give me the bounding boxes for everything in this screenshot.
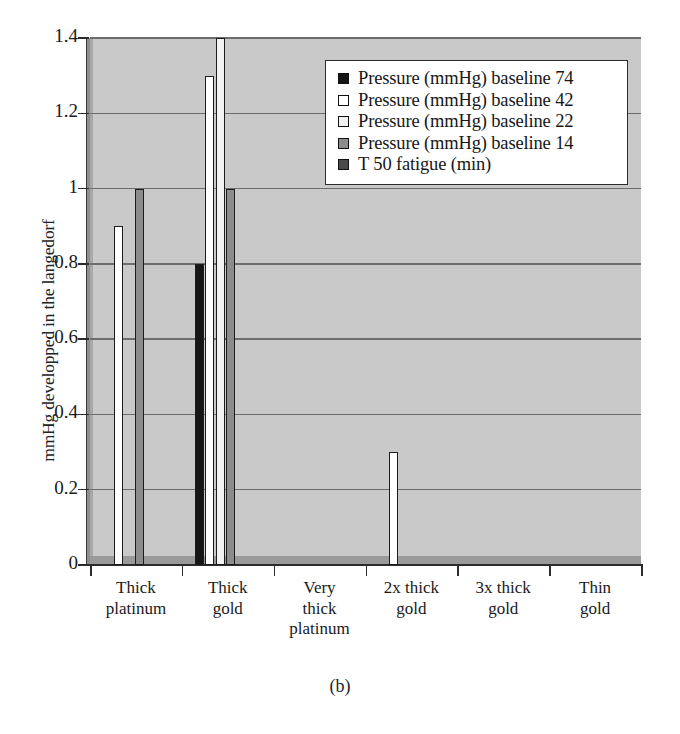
- x-axis-label-line: Very: [274, 578, 366, 599]
- x-axis-label-line: 3x thick: [457, 578, 549, 599]
- x-axis-tick: [366, 565, 368, 576]
- y-axis-label: 1.2: [54, 100, 78, 122]
- x-axis-tick: [90, 565, 92, 576]
- y-axis-tick: [78, 414, 89, 416]
- legend-item: Pressure (mmHg) baseline 74: [338, 68, 617, 90]
- legend-item: T 50 fatigue (min): [338, 154, 617, 176]
- x-axis-label: Thickgold: [182, 578, 274, 619]
- figure-caption: (b): [0, 676, 680, 697]
- x-axis-label: 3x thickgold: [457, 578, 549, 619]
- y-axis-label: 0.4: [54, 401, 78, 423]
- bar: [226, 189, 235, 565]
- x-axis-tick: [641, 565, 643, 576]
- x-axis-label-line: gold: [366, 599, 458, 620]
- legend-label: Pressure (mmHg) baseline 74: [358, 68, 573, 89]
- x-axis-label-line: Thick: [182, 578, 274, 599]
- chart-legend: Pressure (mmHg) baseline 74Pressure (mmH…: [325, 60, 628, 185]
- x-axis-tick: [274, 565, 276, 576]
- x-axis-tick: [182, 565, 184, 576]
- y-axis-tick: [78, 338, 89, 340]
- bar: [205, 76, 214, 565]
- bar: [135, 189, 144, 565]
- x-axis-label-line: gold: [457, 599, 549, 620]
- legend-item: Pressure (mmHg) baseline 14: [338, 133, 617, 155]
- y-axis-tick: [78, 113, 89, 115]
- y-axis-spine: [86, 38, 90, 565]
- gridline: [90, 263, 641, 264]
- y-axis-tick: [78, 188, 89, 190]
- y-axis-spine-shadow: [90, 38, 93, 565]
- bar: [195, 264, 204, 565]
- legend-label: T 50 fatigue (min): [358, 154, 491, 175]
- y-axis-tick: [78, 564, 89, 566]
- y-axis-label: 0.6: [54, 326, 78, 348]
- legend-swatch-icon: [338, 116, 349, 127]
- legend-label: Pressure (mmHg) baseline 14: [358, 133, 573, 154]
- x-axis-tick: [549, 565, 551, 576]
- x-axis-label-line: 2x thick: [366, 578, 458, 599]
- bar: [114, 226, 123, 565]
- y-axis-label: 1.4: [54, 25, 78, 47]
- gridline: [90, 489, 641, 490]
- gridline: [90, 338, 641, 339]
- x-axis-label-line: Thin: [549, 578, 641, 599]
- bar: [389, 452, 398, 565]
- legend-swatch-icon: [338, 159, 349, 170]
- x-axis-line: [84, 564, 643, 566]
- legend-swatch-icon: [338, 95, 349, 106]
- gridline: [90, 37, 641, 38]
- x-axis-label-line: platinum: [90, 599, 182, 620]
- legend-label: Pressure (mmHg) baseline 22: [358, 111, 573, 132]
- x-axis-label-line: thick: [274, 599, 366, 620]
- x-axis-tick: [457, 565, 459, 576]
- x-axis-label: Thingold: [549, 578, 641, 619]
- y-axis-tick: [78, 37, 89, 39]
- x-axis-label-line: Thick: [90, 578, 182, 599]
- bar: [216, 38, 225, 565]
- y-axis-label: 0.8: [54, 251, 78, 273]
- legend-swatch-icon: [338, 138, 349, 149]
- legend-label: Pressure (mmHg) baseline 42: [358, 90, 573, 111]
- gridline: [90, 188, 641, 189]
- figure-container: mmHg developped in the langedorf Pressur…: [0, 0, 680, 734]
- x-axis-label: Verythickplatinum: [274, 578, 366, 640]
- y-axis-label: 0: [69, 552, 79, 574]
- legend-swatch-icon: [338, 73, 349, 84]
- y-axis-tick: [78, 263, 89, 265]
- legend-item: Pressure (mmHg) baseline 42: [338, 90, 617, 112]
- x-axis-label-line: platinum: [274, 619, 366, 640]
- legend-item: Pressure (mmHg) baseline 22: [338, 111, 617, 133]
- x-axis-label-line: gold: [182, 599, 274, 620]
- x-axis-label-line: gold: [549, 599, 641, 620]
- y-axis-label: 1: [69, 176, 79, 198]
- x-axis-label: Thickplatinum: [90, 578, 182, 619]
- x-axis-label: 2x thickgold: [366, 578, 458, 619]
- y-axis-label: 0.2: [54, 477, 78, 499]
- y-axis-tick: [78, 489, 89, 491]
- gridline: [90, 414, 641, 415]
